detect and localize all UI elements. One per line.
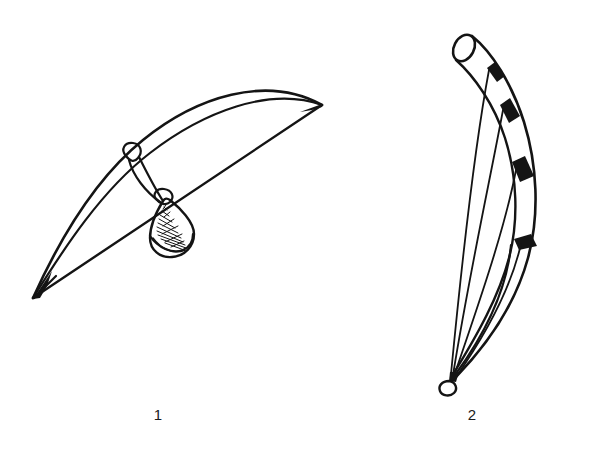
figure-2-group (439, 31, 537, 396)
string-2 (453, 110, 503, 375)
figure-2-caption: 2 (452, 407, 492, 422)
figure-1-group (33, 91, 322, 299)
illustration-plate: 1 2 (0, 0, 589, 449)
figure-1-drawing (0, 0, 589, 449)
tie-loop (123, 143, 140, 161)
bottom-ring (439, 381, 456, 395)
figure-1-caption: 1 (138, 407, 178, 422)
tube-mouth-ellipse (449, 31, 480, 65)
curved-body-outer-edge (455, 36, 536, 378)
bow-stave-outer-edge (33, 91, 322, 298)
